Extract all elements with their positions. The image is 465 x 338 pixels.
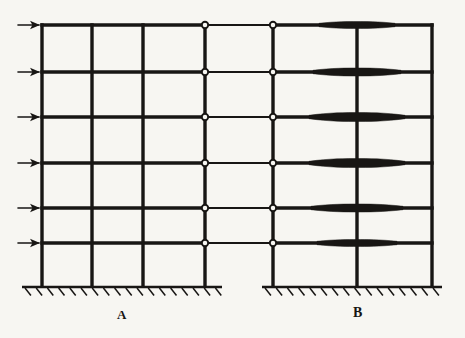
ground-hatch-tick: [159, 288, 165, 295]
structural-frame-figure: A B: [0, 0, 465, 338]
beam-haunch-level-1: [319, 22, 395, 29]
hinge-circle-level-2-right: [270, 69, 276, 75]
ground-hatch-tick: [343, 288, 349, 295]
hinge-circle-level-1-right: [270, 22, 276, 28]
beam-haunch-level-4: [309, 159, 405, 168]
ground-hatch-tick: [422, 288, 428, 295]
ground-hatch-tick: [182, 288, 188, 295]
frame-label-b: B: [338, 306, 378, 320]
ground-hatch-tick: [25, 288, 31, 295]
ground-hatch-tick: [276, 288, 282, 295]
ground-hatch-tick: [377, 288, 383, 295]
hinge-circle-level-1-left: [202, 22, 208, 28]
ground-hatch-tick: [321, 288, 327, 295]
hinge-circle-level-6-right: [270, 240, 276, 246]
beam-haunch-level-3: [309, 113, 405, 122]
ground-hatch-tick: [287, 288, 293, 295]
ground-hatch-tick: [411, 288, 417, 295]
ground-hatch-tick: [355, 288, 361, 295]
ground-hatch-tick: [81, 288, 87, 295]
beam-haunch-level-2: [313, 68, 401, 76]
ground-hatch-tick: [70, 288, 76, 295]
beam-haunch-level-6: [317, 240, 397, 247]
frame-label-a: A: [102, 308, 142, 321]
ground-hatch-tick: [433, 288, 439, 295]
ground-hatch-tick: [215, 288, 221, 295]
ground-hatch-tick: [388, 288, 394, 295]
hinge-circle-level-6-left: [202, 240, 208, 246]
ground-hatch-tick: [171, 288, 177, 295]
hinge-circle-level-5-left: [202, 205, 208, 211]
ground-hatch-tick: [148, 288, 154, 295]
ground-hatch-tick: [399, 288, 405, 295]
hinge-circle-level-4-right: [270, 160, 276, 166]
ground-hatch-tick: [47, 288, 53, 295]
ground-hatch-tick: [299, 288, 305, 295]
ground-hatch-tick: [59, 288, 65, 295]
ground-hatch-tick: [332, 288, 338, 295]
ground-hatch-tick: [310, 288, 316, 295]
ground-hatch-tick: [265, 288, 271, 295]
beam-haunch-level-5: [311, 204, 403, 212]
hinge-circle-level-5-right: [270, 205, 276, 211]
hinge-circle-level-4-left: [202, 160, 208, 166]
ground-hatch-tick: [36, 288, 42, 295]
hinge-circle-level-3-right: [270, 114, 276, 120]
ground-hatch-tick: [115, 288, 121, 295]
frame-diagram-canvas: [0, 0, 465, 338]
hinge-circle-level-3-left: [202, 114, 208, 120]
ground-hatch-tick: [126, 288, 132, 295]
ground-hatch-tick: [103, 288, 109, 295]
ground-hatch-tick: [193, 288, 199, 295]
hinge-circle-level-2-left: [202, 69, 208, 75]
ground-hatch-tick: [366, 288, 372, 295]
ground-hatch-tick: [137, 288, 143, 295]
ground-hatch-tick: [204, 288, 210, 295]
diagram-layer: [18, 22, 442, 296]
ground-hatch-tick: [92, 288, 98, 295]
